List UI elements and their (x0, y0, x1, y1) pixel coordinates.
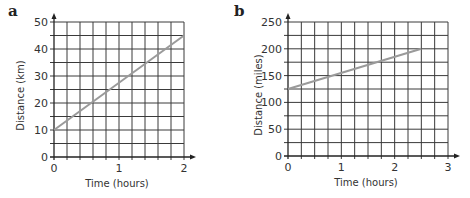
y-tick-label: 200 (261, 43, 282, 56)
x-tick-label: 2 (391, 161, 398, 174)
y-tick-label: 0 (275, 150, 282, 163)
y-tick-label: 100 (261, 96, 282, 109)
chart-b: 0501001502002500123Time (hours)Distance … (0, 0, 470, 198)
x-axis-arrow-icon (454, 154, 460, 159)
x-tick-label: 1 (338, 161, 345, 174)
x-tick-label: 0 (285, 161, 292, 174)
y-axis-title: Distance (miles) (253, 54, 264, 135)
x-axis-title: Time (hours) (333, 177, 398, 188)
y-tick-label: 50 (268, 123, 282, 136)
y-tick-label: 150 (261, 70, 282, 83)
x-tick-label: 3 (445, 161, 452, 174)
y-axis-arrow-icon (286, 13, 291, 19)
y-tick-label: 250 (261, 16, 282, 29)
